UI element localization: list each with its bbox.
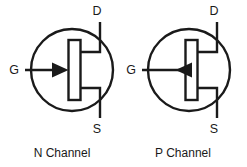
- jfet-symbols-figure: D G S N Channel D G S P Channel: [0, 0, 247, 167]
- p-channel-gate-arrow-icon: [176, 63, 193, 78]
- p-channel-drain-label: D: [209, 4, 218, 18]
- n-channel-source-label: S: [93, 122, 101, 136]
- p-channel-jfet-symbol: D G S P Channel: [123, 0, 247, 167]
- n-channel-gate-arrow-icon: [52, 63, 69, 78]
- n-channel-channel-bar: [69, 40, 81, 100]
- n-channel-jfet-symbol: D G S N Channel: [0, 0, 123, 167]
- p-channel-caption: P Channel: [155, 146, 211, 160]
- p-channel-gate-label: G: [126, 63, 136, 77]
- n-channel-caption: N Channel: [34, 146, 91, 160]
- p-channel-source-label: S: [210, 122, 218, 136]
- n-channel-drain-label: D: [92, 4, 101, 18]
- n-channel-gate-label: G: [9, 63, 19, 77]
